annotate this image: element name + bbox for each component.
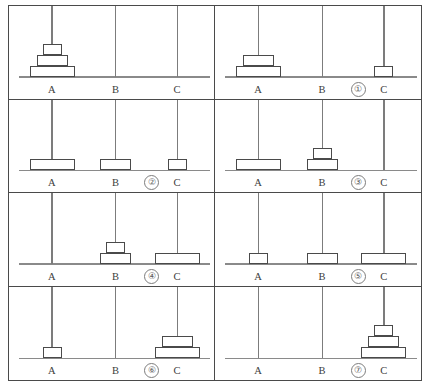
peg-label-b: B <box>302 271 342 283</box>
step-number-badge: ⑤ <box>351 269 366 284</box>
peg-label-c: C <box>157 84 197 96</box>
peg-rod <box>177 6 178 77</box>
hanoi-state-panel: ABC① <box>215 6 421 100</box>
disk-size-2[interactable] <box>100 159 131 170</box>
peg-label-c: C <box>364 177 404 189</box>
disk-size-3[interactable] <box>361 347 406 358</box>
peg-label-a: A <box>238 271 278 283</box>
disk-size-3[interactable] <box>155 253 200 264</box>
disk-size-1[interactable] <box>168 159 187 170</box>
disk-size-2[interactable] <box>37 55 68 66</box>
disk-size-1[interactable] <box>374 66 393 77</box>
peg-label-b: B <box>302 84 342 96</box>
peg-label-b: B <box>302 177 342 189</box>
disk-size-3[interactable] <box>155 347 200 358</box>
step-number-badge: ④ <box>144 269 159 284</box>
disk-size-1[interactable] <box>313 148 332 159</box>
hanoi-state-panel: ABC⑥ <box>9 287 215 381</box>
peg-label-c: C <box>364 271 404 283</box>
disk-size-2[interactable] <box>368 336 399 347</box>
step-number-badge: ③ <box>351 175 366 190</box>
peg-label-a: A <box>32 177 72 189</box>
disk-size-1[interactable] <box>249 253 268 264</box>
peg-rod <box>258 287 259 359</box>
hanoi-state-panel: ABC <box>9 6 215 100</box>
peg-rod <box>383 100 384 171</box>
disk-size-2[interactable] <box>243 55 274 66</box>
peg-label-c: C <box>364 365 404 377</box>
step-number-badge: ⑦ <box>351 363 366 378</box>
peg-label-c: C <box>364 84 404 96</box>
peg-rod <box>115 6 116 77</box>
peg-label-b: B <box>96 84 136 96</box>
disk-size-1[interactable] <box>374 325 393 336</box>
disk-size-1[interactable] <box>43 44 62 55</box>
peg-label-b: B <box>96 177 136 189</box>
disk-size-3[interactable] <box>30 66 75 77</box>
disk-size-3[interactable] <box>30 159 75 170</box>
disk-size-1[interactable] <box>43 347 62 358</box>
disk-size-2[interactable] <box>307 159 338 170</box>
hanoi-state-panel: ABC⑦ <box>215 287 421 381</box>
disk-size-2[interactable] <box>307 253 338 264</box>
disk-size-3[interactable] <box>236 66 281 77</box>
peg-label-b: B <box>96 271 136 283</box>
peg-label-a: A <box>238 365 278 377</box>
peg-label-a: A <box>32 271 72 283</box>
peg-label-a: A <box>32 84 72 96</box>
hanoi-state-panel: ABC③ <box>215 100 421 194</box>
peg-label-c: C <box>157 365 197 377</box>
peg-rod <box>51 193 52 264</box>
panel-grid: ABCABC①ABC②ABC③ABC④ABC⑤ABC⑥ABC⑦ <box>9 6 421 380</box>
step-number-badge: ① <box>351 82 366 97</box>
peg-label-a: A <box>238 84 278 96</box>
peg-label-b: B <box>302 365 342 377</box>
peg-rod <box>115 287 116 359</box>
hanoi-state-panel: ABC② <box>9 100 215 194</box>
disk-size-2[interactable] <box>100 253 131 264</box>
disk-size-3[interactable] <box>236 159 281 170</box>
peg-rod <box>322 6 323 77</box>
peg-label-c: C <box>157 271 197 283</box>
hanoi-state-panel: ABC⑤ <box>215 193 421 287</box>
hanoi-state-panel: ABC④ <box>9 193 215 287</box>
peg-label-c: C <box>157 177 197 189</box>
disk-size-2[interactable] <box>162 336 193 347</box>
peg-label-a: A <box>32 365 72 377</box>
disk-size-3[interactable] <box>361 253 406 264</box>
peg-rod <box>322 287 323 359</box>
disk-size-1[interactable] <box>106 242 125 253</box>
peg-label-a: A <box>238 177 278 189</box>
peg-label-b: B <box>96 365 136 377</box>
hanoi-figure: ABCABC①ABC②ABC③ABC④ABC⑤ABC⑥ABC⑦ <box>8 5 422 381</box>
